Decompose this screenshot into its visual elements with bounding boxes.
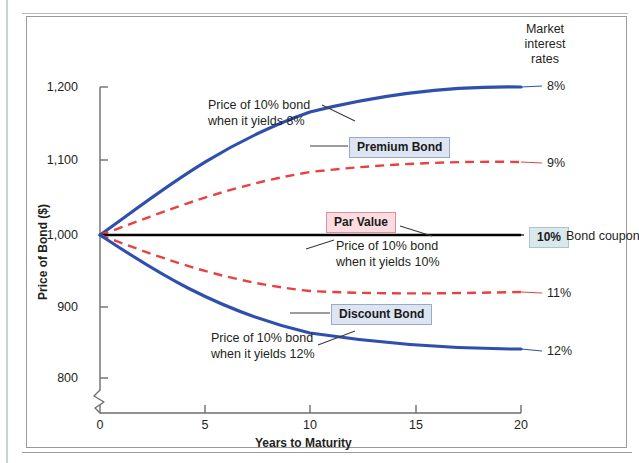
legend-header-line-3: rates <box>508 52 582 68</box>
annotation-12pct-line-2: when it yields 12% <box>211 346 315 362</box>
x-axis-title: Years to Maturity <box>255 436 352 450</box>
legend-header-line-1: Market <box>508 22 582 38</box>
rate-label-9pct: 9% <box>547 156 565 171</box>
y-tick-label-800: 800 <box>34 371 78 386</box>
leader-line-10pct-annotation <box>306 240 334 249</box>
series-curve-11pct <box>100 235 521 293</box>
figure-page: 1,200 1,100 1,000 900 800 0 5 10 15 20 P… <box>0 0 639 463</box>
y-tick-label-1100: 1,100 <box>34 153 78 168</box>
connector-11pct <box>521 292 542 293</box>
bond-coupon-note: Bond coupon <box>566 229 639 244</box>
par-value-chip: Par Value <box>326 212 396 233</box>
x-tick-label-15: 15 <box>402 418 430 433</box>
rate-label-10pct-chip: 10% <box>529 227 569 248</box>
premium-bond-chip: Premium Bond <box>349 137 450 158</box>
leader-line-8pct-annotation <box>322 105 355 121</box>
y-tick-label-1200: 1,200 <box>34 80 78 95</box>
series-curve-9pct <box>100 162 521 235</box>
x-tick-label-10: 10 <box>296 418 324 433</box>
connector-8pct <box>521 86 542 87</box>
annotation-8pct-line-2: when it yields 8% <box>208 113 305 129</box>
rate-label-12pct: 12% <box>547 344 572 359</box>
discount-bond-chip: Discount Bond <box>331 304 432 325</box>
x-tick-label-20: 20 <box>507 418 535 433</box>
x-axis <box>100 405 521 413</box>
annotation-12pct-line-1: Price of 10% bond <box>211 330 313 346</box>
x-tick-label-5: 5 <box>191 418 219 433</box>
annotation-10pct-line-2: when it yields 10% <box>336 254 440 270</box>
y-axis-title: Price of Bond ($) <box>36 204 50 300</box>
annotation-8pct-line-1: Price of 10% bond <box>208 97 310 113</box>
y-axis-break-icon <box>94 390 104 413</box>
connector-12pct <box>521 349 542 351</box>
rate-label-8pct: 8% <box>547 79 565 94</box>
rate-label-11pct: 11% <box>547 286 571 301</box>
connector-9pct <box>521 162 542 163</box>
x-tick-label-0: 0 <box>86 418 114 433</box>
y-tick-label-900: 900 <box>34 300 78 315</box>
annotation-10pct-line-1: Price of 10% bond <box>336 238 438 254</box>
legend-header-line-2: interest <box>508 37 582 53</box>
